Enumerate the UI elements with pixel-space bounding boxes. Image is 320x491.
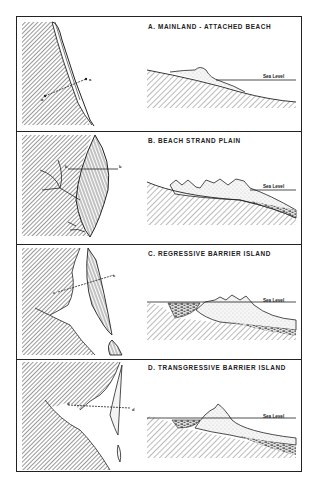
sea-level-label: Sea Level <box>263 74 284 79</box>
panel-title: D. TRANSGRESSIVE BARRIER ISLAND <box>148 364 286 371</box>
panel-b: B. BEACH STRAND PLAIN Sea Level b b <box>17 131 301 244</box>
panel-title: B. BEACH STRAND PLAIN <box>148 137 241 144</box>
sea-level-label: Sea Level <box>263 184 284 189</box>
section-label: b <box>119 164 121 169</box>
figure-frame: A. MAINLAND - ATTACHED BEACH Sea Level a… <box>16 16 302 472</box>
section-label: c <box>113 273 115 278</box>
sea-level-label: Sea Level <box>263 414 284 419</box>
panel-a: A. MAINLAND - ATTACHED BEACH Sea Level a… <box>17 17 301 131</box>
section-label: d <box>132 407 134 412</box>
panel-title: C. REGRESSIVE BARRIER ISLAND <box>148 250 271 257</box>
section-label: a <box>41 97 43 102</box>
section-label: c <box>53 290 55 295</box>
panel-c: C. REGRESSIVE BARRIER ISLAND Sea Level c… <box>17 244 301 359</box>
panel-d: D. TRANSGRESSIVE BARRIER ISLAND Sea Leve… <box>17 359 301 473</box>
section-label: d <box>67 401 69 406</box>
panel-title: A. MAINLAND - ATTACHED BEACH <box>148 23 271 30</box>
section-label: a <box>89 77 91 82</box>
sea-level-label: Sea Level <box>263 298 284 303</box>
section-label: b <box>65 164 67 169</box>
